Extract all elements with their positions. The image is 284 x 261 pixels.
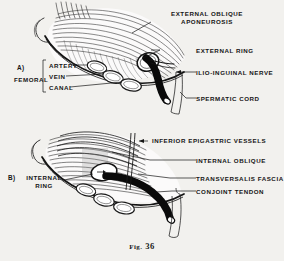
transversalis-fascia-label: TRANSVERSALIS FASCIA — [196, 175, 284, 183]
anatomical-illustration — [0, 0, 284, 261]
panel-b-marker: B) — [8, 174, 15, 181]
internal-ring-line2: RING — [35, 182, 53, 189]
panel-a-marker: A) — [17, 64, 24, 71]
figure-caption: Fig. 36 — [0, 241, 284, 251]
internal-ring-label: INTERNAL RING — [22, 174, 66, 191]
femoral-bracket-label: FEMORAL — [14, 76, 48, 84]
spermatic-cord-label: SPERMATIC CORD — [196, 95, 260, 103]
figure-caption-number: 36 — [145, 241, 155, 251]
femoral-canal-label: CANAL — [49, 84, 73, 92]
external-oblique-aponeurosis-line2: APONEUROSIS — [181, 18, 233, 25]
figure-caption-prefix: Fig. — [129, 243, 142, 251]
internal-oblique-label: INTERNAL OBLIQUE — [196, 157, 266, 165]
external-oblique-aponeurosis-line1: EXTERNAL OBLIQUE — [171, 10, 243, 17]
leader-arrow-inferior-epigastric — [139, 139, 144, 143]
femoral-vein-label: VEIN — [49, 73, 66, 81]
conjoint-tendon-label: CONJOINT TENDON — [196, 188, 264, 196]
leader-arrow-ilio-inguinal — [176, 70, 181, 74]
internal-ring-line1: INTERNAL — [26, 174, 62, 181]
femoral-artery-label: ARTERY — [49, 62, 78, 70]
figure-36: A) FEMORAL ARTERY VEIN CANAL EXTERNAL OB… — [0, 0, 284, 261]
external-oblique-aponeurosis-label: EXTERNAL OBLIQUE APONEUROSIS — [152, 10, 262, 27]
inferior-epigastric-vessels-label: INFERIOR EPIGASTRIC VESSELS — [152, 137, 266, 145]
external-ring-label: EXTERNAL RING — [196, 47, 254, 55]
ilio-inguinal-nerve-label: ILIO-INGUINAL NERVE — [196, 69, 273, 77]
